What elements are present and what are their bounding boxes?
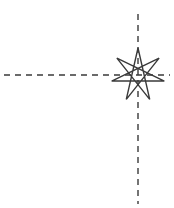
figure-svg (0, 0, 174, 208)
figure-canvas (0, 0, 174, 208)
figure-background (0, 0, 174, 208)
